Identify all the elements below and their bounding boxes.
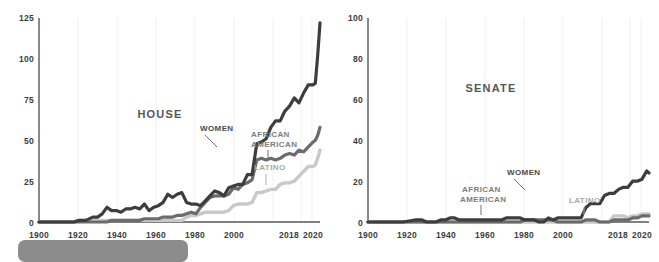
senate-chart-panel: 100 80 60 40 20 0 1900 1920 1940 1960 19… [329,0,658,254]
house-annotation-latino: LATINO [254,163,286,185]
house-ytick-100: 100 [19,54,34,64]
senate-series-women [368,171,649,222]
caption-placeholder-bar [18,240,188,262]
house-panel-title: HOUSE [137,108,182,120]
senate-xtick-1920: 1920 [397,230,417,240]
house-ytick-75: 75 [24,95,34,105]
house-xtick-2018: 2018 [279,230,299,240]
senate-xtick-1940: 1940 [436,230,456,240]
senate-series-group [368,171,649,222]
house-xtick-1900: 1900 [29,230,49,240]
house-xtick-1920: 1920 [68,230,88,240]
senate-ytick-100: 100 [348,13,363,23]
house-x-tick-labels: 1900 1920 1940 1960 1980 2000 2018 2020 [29,230,323,240]
senate-xtick-1980: 1980 [514,230,534,240]
senate-annotation-african-american: AFRICAN AMERICAN [460,185,506,215]
senate-ytick-40: 40 [353,136,363,146]
senate-label-african-american-line2: AMERICAN [460,195,506,204]
house-label-latino: LATINO [254,163,286,172]
house-series-group [39,23,320,222]
senate-xtick-2020: 2020 [632,230,652,240]
senate-ytick-20: 20 [353,177,363,187]
senate-label-women: WOMEN [507,168,541,177]
house-annotation-african-american: AFRICAN AMERICAN [251,130,297,160]
house-annotation-women: WOMEN [200,124,234,147]
house-ytick-25: 25 [24,177,34,187]
house-ytick-50: 50 [24,136,34,146]
house-ytick-0: 0 [29,218,34,228]
senate-axes [368,18,649,222]
house-series-women [39,23,320,222]
house-chart-svg: 125 100 75 50 25 0 1900 1920 1940 1960 1… [0,0,329,254]
senate-panel-title: SENATE [465,82,516,94]
senate-chart-svg: 100 80 60 40 20 0 1900 1920 1940 1960 19… [329,0,659,254]
senate-y-tick-labels: 100 80 60 40 20 0 [348,13,363,228]
house-y-tick-labels: 125 100 75 50 25 0 [19,13,34,228]
house-series-latino [39,150,320,222]
senate-ytick-60: 60 [353,95,363,105]
senate-xtick-2018: 2018 [608,230,628,240]
house-xtick-2000: 2000 [224,230,244,240]
house-label-african-american-line2: AMERICAN [251,140,297,149]
house-ytick-125: 125 [19,13,34,23]
senate-ytick-80: 80 [353,54,363,64]
house-xtick-1960: 1960 [146,230,166,240]
house-xtick-2020: 2020 [303,230,323,240]
senate-label-african-american-line1: AFRICAN [462,185,501,194]
house-xtick-1980: 1980 [185,230,205,240]
senate-x-tick-labels: 1900 1920 1940 1960 1980 2000 2018 2020 [358,230,652,240]
house-label-women: WOMEN [200,124,234,133]
house-xtick-1940: 1940 [107,230,127,240]
house-chart-panel: 125 100 75 50 25 0 1900 1920 1940 1960 1… [0,0,329,254]
senate-ytick-0: 0 [358,218,363,228]
senate-xtick-2000: 2000 [553,230,573,240]
senate-xtick-1960: 1960 [475,230,495,240]
house-label-african-american-line1: AFRICAN [251,130,290,139]
senate-label-latino: LATINO [569,196,601,205]
senate-gridlines [407,18,641,222]
senate-xtick-1900: 1900 [358,230,378,240]
